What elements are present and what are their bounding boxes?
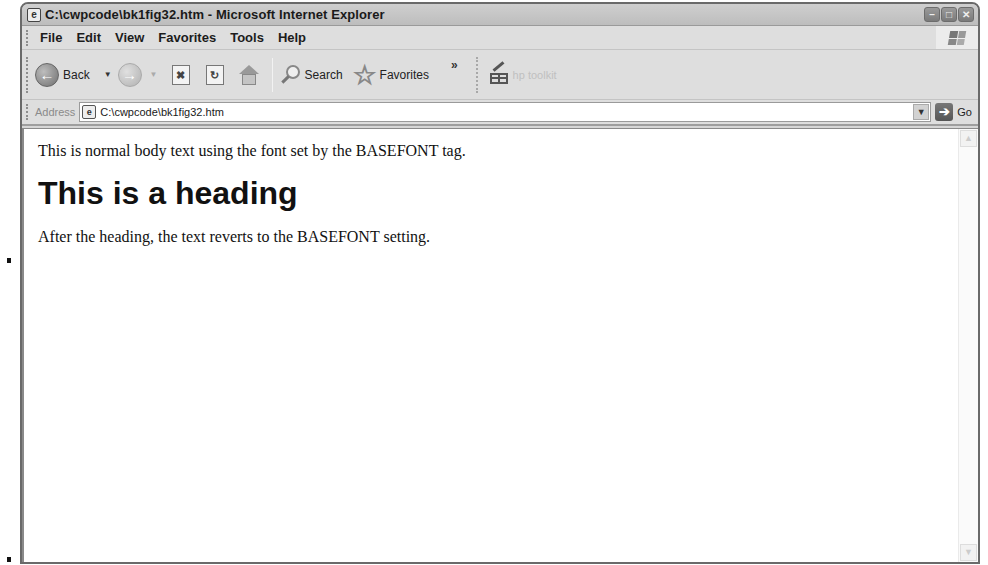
scroll-up-button[interactable]: ▲ (960, 130, 977, 147)
address-label: Address (35, 106, 75, 118)
menu-bar: File Edit View Favorites Tools Help (22, 26, 978, 50)
favorites-button[interactable]: ☆ Favorites (353, 64, 429, 86)
hp-toolkit-icon (488, 65, 510, 85)
page-content: This is normal body text using the font … (22, 128, 978, 562)
page-icon: e (82, 105, 96, 119)
document-body: This is normal body text using the font … (38, 141, 948, 247)
menu-view[interactable]: View (110, 30, 153, 45)
menu-file[interactable]: File (35, 30, 71, 45)
address-dropdown-button[interactable]: ▼ (913, 104, 929, 120)
page-heading: This is a heading (38, 175, 948, 211)
vertical-scrollbar[interactable]: ▲ ▼ (958, 129, 978, 562)
browser-window: e C:\cwpcode\bk1fig32.htm - Microsoft In… (20, 2, 980, 564)
toolbar-grip[interactable] (476, 57, 478, 93)
toolbar-grip[interactable] (26, 57, 29, 93)
menu-favorites[interactable]: Favorites (153, 30, 225, 45)
ie-page-icon: e (27, 8, 41, 22)
body-paragraph: This is normal body text using the font … (38, 141, 948, 161)
toolbar-grip[interactable] (26, 30, 29, 46)
crop-mark (7, 258, 11, 263)
address-value: C:\cwpcode\bk1fig32.htm (100, 106, 224, 118)
scroll-down-button[interactable]: ▼ (960, 544, 977, 561)
title-bar[interactable]: e C:\cwpcode\bk1fig32.htm - Microsoft In… (22, 4, 978, 26)
menu-help[interactable]: Help (273, 30, 315, 45)
back-arrow-icon: ← (35, 63, 59, 87)
star-icon: ☆ (353, 64, 376, 86)
crop-mark (7, 557, 11, 562)
hp-toolkit-label: hp toolkit (513, 69, 557, 81)
refresh-button[interactable]: ↻ (206, 65, 224, 85)
back-label: Back (63, 68, 90, 82)
forward-arrow-icon: → (118, 63, 142, 87)
close-button[interactable]: ✕ (958, 7, 974, 22)
go-label: Go (957, 106, 972, 118)
minimize-button[interactable]: – (924, 7, 940, 22)
toolbar-grip[interactable] (26, 104, 29, 120)
stop-button[interactable]: ✖ (172, 65, 190, 85)
hp-toolkit-button[interactable]: hp toolkit (488, 65, 557, 85)
windows-logo-icon (936, 26, 978, 49)
toolbar-overflow-button[interactable]: » (451, 58, 458, 72)
window-controls: – □ ✕ (924, 7, 974, 22)
menu-edit[interactable]: Edit (71, 30, 110, 45)
favorites-label: Favorites (380, 68, 429, 82)
go-button[interactable]: ➔ Go (935, 103, 972, 121)
address-input[interactable]: e C:\cwpcode\bk1fig32.htm ▼ (79, 102, 931, 122)
home-button[interactable] (238, 65, 260, 85)
home-icon (239, 65, 259, 74)
go-arrow-icon: ➔ (935, 103, 953, 121)
menu-tools[interactable]: Tools (225, 30, 273, 45)
search-icon (279, 64, 301, 86)
address-bar: Address e C:\cwpcode\bk1fig32.htm ▼ ➔ Go (22, 100, 978, 126)
toolbar-separator (272, 58, 273, 92)
window-title: C:\cwpcode\bk1fig32.htm - Microsoft Inte… (45, 7, 385, 22)
search-button[interactable]: Search (279, 64, 343, 86)
forward-button[interactable]: → (118, 63, 142, 87)
search-label: Search (305, 68, 343, 82)
maximize-button[interactable]: □ (941, 7, 957, 22)
back-history-dropdown[interactable]: ▼ (104, 70, 112, 79)
body-paragraph: After the heading, the text reverts to t… (38, 227, 948, 247)
back-button[interactable]: ← Back (35, 63, 90, 87)
forward-history-dropdown[interactable]: ▼ (150, 70, 158, 79)
standard-toolbar: ← Back ▼ → ▼ ✖ ↻ Search ☆ Favorites » (22, 50, 978, 100)
